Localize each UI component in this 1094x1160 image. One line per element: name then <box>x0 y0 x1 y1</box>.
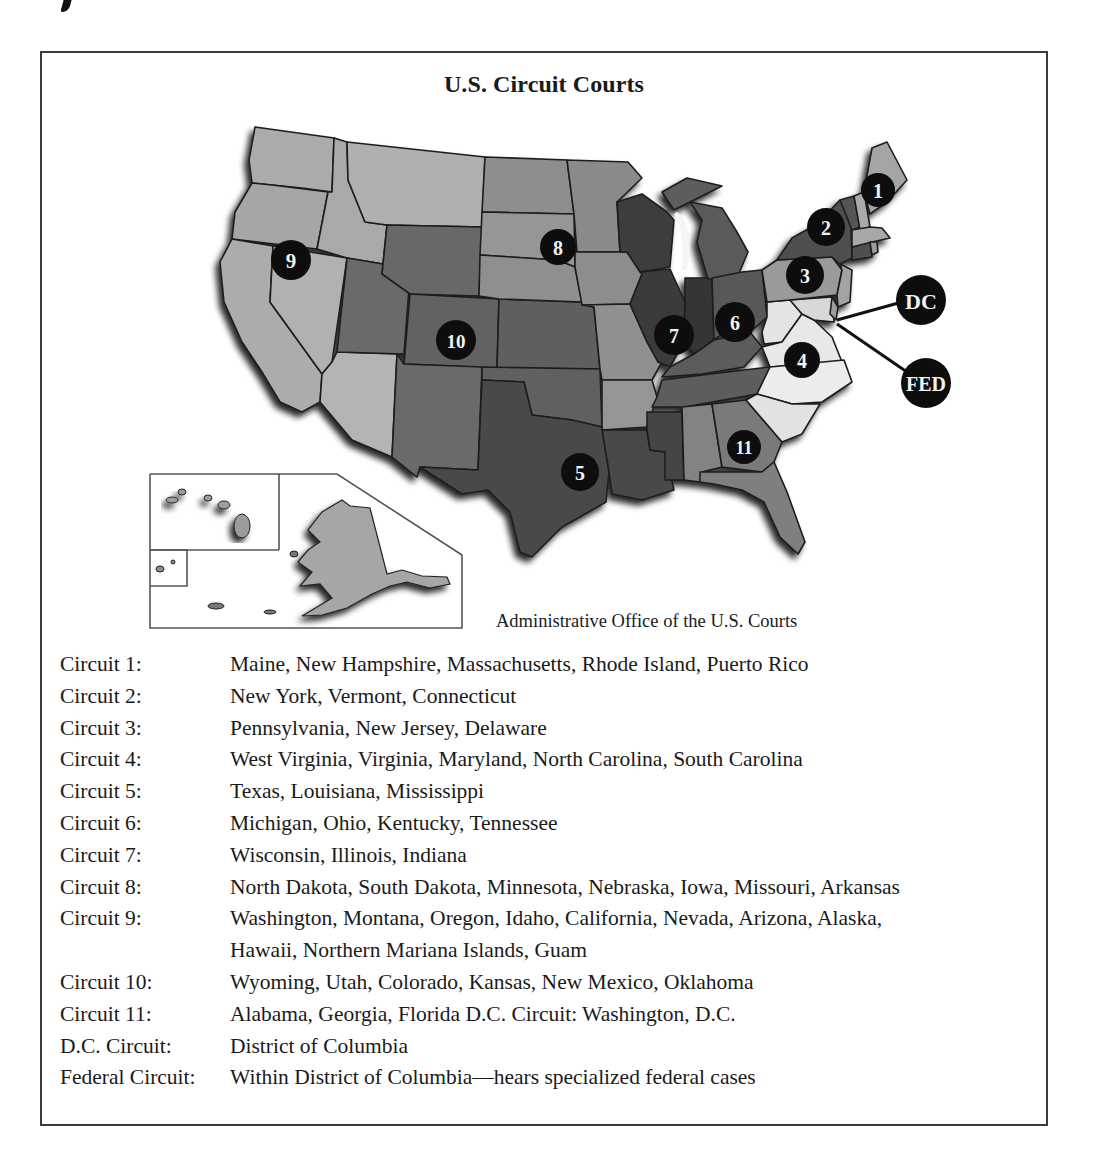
legend-row-circuit-9-cont: Hawaii, Northern Mariana Islands, Guam <box>60 935 900 967</box>
svg-text:FED: FED <box>906 373 946 395</box>
legend-label <box>60 935 230 967</box>
us-circuit-map: 1 2 3 4 5 6 7 8 9 10 11 DC FED <box>42 53 1046 633</box>
svg-text:8: 8 <box>553 237 563 259</box>
circuit-marker-6: 6 <box>715 302 755 342</box>
legend-value: Alabama, Georgia, Florida D.C. Circuit: … <box>230 999 736 1031</box>
circuit-marker-5: 5 <box>561 453 599 491</box>
legend-label: Circuit 6: <box>60 808 230 840</box>
legend-row-circuit-1: Circuit 1:Maine, New Hampshire, Massachu… <box>60 649 900 681</box>
state-oregon <box>232 183 328 249</box>
state-florida <box>700 462 805 554</box>
legend-value: Wisconsin, Illinois, Indiana <box>230 840 467 872</box>
legend-value: Within District of Columbia—hears specia… <box>230 1062 756 1094</box>
legend-row-circuit-6: Circuit 6:Michigan, Ohio, Kentucky, Tenn… <box>60 808 900 840</box>
legend-label: Circuit 7: <box>60 840 230 872</box>
circuit-marker-9: 9 <box>271 240 311 280</box>
legend-value: Michigan, Ohio, Kentucky, Tennessee <box>230 808 558 840</box>
dc-connector-line <box>837 302 902 320</box>
legend-label: Circuit 3: <box>60 713 230 745</box>
svg-text:5: 5 <box>575 462 585 484</box>
legend-label: Circuit 9: <box>60 903 230 935</box>
legend-row-dc-circuit: D.C. Circuit:District of Columbia <box>60 1031 900 1063</box>
inset-alaska-hawaii <box>150 474 462 628</box>
circuit-legend: Circuit 1:Maine, New Hampshire, Massachu… <box>60 649 900 1094</box>
legend-label: Circuit 11: <box>60 999 230 1031</box>
legend-value: New York, Vermont, Connecticut <box>230 681 516 713</box>
legend-value: Hawaii, Northern Mariana Islands, Guam <box>230 935 587 967</box>
fed-connector-line <box>837 324 907 372</box>
state-washington <box>249 127 334 192</box>
svg-text:3: 3 <box>800 265 810 287</box>
legend-row-circuit-4: Circuit 4:West Virginia, Virginia, Maryl… <box>60 744 900 776</box>
legend-value: West Virginia, Virginia, Maryland, North… <box>230 744 803 776</box>
legend-row-circuit-8: Circuit 8:North Dakota, South Dakota, Mi… <box>60 872 900 904</box>
circuit-marker-7: 7 <box>654 315 694 355</box>
legend-value: North Dakota, South Dakota, Minnesota, N… <box>230 872 900 904</box>
page-corner-mark <box>60 0 71 12</box>
legend-row-circuit-10: Circuit 10:Wyoming, Utah, Colorado, Kans… <box>60 967 900 999</box>
legend-label: Circuit 1: <box>60 649 230 681</box>
state-north-dakota <box>482 157 574 214</box>
legend-row-circuit-9: Circuit 9:Washington, Montana, Oregon, I… <box>60 903 900 935</box>
legend-value: Pennsylvania, New Jersey, Delaware <box>230 713 547 745</box>
svg-text:2: 2 <box>821 217 831 239</box>
state-michigan <box>690 202 748 279</box>
svg-text:DC: DC <box>905 289 937 314</box>
legend-value: District of Columbia <box>230 1031 408 1063</box>
state-kansas <box>497 299 600 369</box>
svg-text:7: 7 <box>669 325 679 347</box>
figure-box: U.S. Circuit Courts <box>40 51 1048 1126</box>
legend-label: Circuit 4: <box>60 744 230 776</box>
circuit-marker-8: 8 <box>540 229 576 265</box>
state-new-mexico <box>392 354 482 477</box>
circuit-marker-11: 11 <box>727 430 761 464</box>
svg-text:10: 10 <box>447 331 466 352</box>
state-rhode-island <box>870 242 878 255</box>
legend-label: Circuit 2: <box>60 681 230 713</box>
circuit-marker-1: 1 <box>861 173 895 207</box>
svg-text:4: 4 <box>797 350 807 372</box>
svg-text:11: 11 <box>735 438 752 458</box>
legend-label: Circuit 5: <box>60 776 230 808</box>
legend-row-federal-circuit: Federal Circuit:Within District of Colum… <box>60 1062 900 1094</box>
circuit-marker-3: 3 <box>786 256 824 294</box>
circuit-marker-2: 2 <box>807 208 845 246</box>
circuit-marker-4: 4 <box>784 342 820 378</box>
state-arizona <box>320 352 397 457</box>
legend-value: Wyoming, Utah, Colorado, Kansas, New Mex… <box>230 967 754 999</box>
legend-row-circuit-3: Circuit 3:Pennsylvania, New Jersey, Dela… <box>60 713 900 745</box>
legend-label: D.C. Circuit: <box>60 1031 230 1063</box>
svg-text:9: 9 <box>286 249 297 273</box>
legend-row-circuit-2: Circuit 2:New York, Vermont, Connecticut <box>60 681 900 713</box>
legend-row-circuit-7: Circuit 7:Wisconsin, Illinois, Indiana <box>60 840 900 872</box>
circuit-marker-dc: DC <box>896 275 946 325</box>
circuit-marker-10: 10 <box>436 320 476 360</box>
circuit-marker-fed: FED <box>901 358 951 408</box>
legend-label: Circuit 8: <box>60 872 230 904</box>
svg-text:6: 6 <box>730 312 740 334</box>
legend-value: Washington, Montana, Oregon, Idaho, Cali… <box>230 903 882 935</box>
legend-label: Federal Circuit: <box>60 1062 230 1094</box>
legend-label: Circuit 10: <box>60 967 230 999</box>
legend-row-circuit-11: Circuit 11:Alabama, Georgia, Florida D.C… <box>60 999 900 1031</box>
legend-row-circuit-5: Circuit 5:Texas, Louisiana, Mississippi <box>60 776 900 808</box>
map-source-credit: Administrative Office of the U.S. Courts <box>496 611 797 632</box>
svg-text:1: 1 <box>873 180 883 202</box>
lake-michigan <box>674 212 690 270</box>
state-wyoming <box>382 225 482 296</box>
state-montana <box>347 142 485 227</box>
legend-value: Maine, New Hampshire, Massachusetts, Rho… <box>230 649 809 681</box>
legend-value: Texas, Louisiana, Mississippi <box>230 776 484 808</box>
